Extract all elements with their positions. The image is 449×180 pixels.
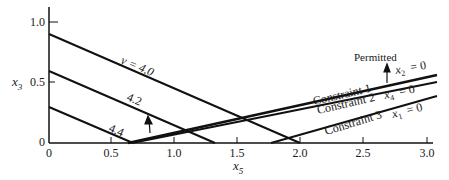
x-tick-label: 3.0 [420, 146, 435, 160]
improve-arrow-icon [145, 116, 152, 124]
x-tick-label: 0.5 [104, 146, 119, 160]
y-axis-title: x3 [11, 74, 23, 92]
permitted-arrow-icon [384, 64, 390, 72]
objective-line-4-0 [49, 34, 300, 143]
tick-labels: 0 0.5 1.0 1.5 2.0 2.5 3.0 0 0.5 1.0 [30, 15, 435, 160]
x-tick-label: 1.0 [167, 146, 182, 160]
chart: 0 0.5 1.0 1.5 2.0 2.5 3.0 0 0.5 1.0 x3 x… [0, 0, 449, 180]
objective-labels: y = 4.0 4.2 4.4 [107, 52, 156, 139]
objective-label-4-4: 4.4 [107, 121, 126, 140]
x-tick-label: 0 [46, 146, 52, 160]
y-tick-label: 0 [39, 135, 45, 149]
objective-lines [49, 34, 300, 143]
constraint-labels: Constraint 1 Constraint 2 Constraint 3 x… [312, 51, 428, 138]
constraint-1-equation: x2= 0 [393, 58, 427, 79]
y-tick-label: 0.5 [30, 75, 45, 89]
x-tick-label: 2.0 [293, 146, 308, 160]
constraint-3-equation: x1= 0 [389, 100, 424, 123]
y-tick-label: 1.0 [30, 15, 45, 29]
x-axis-title: x5 [232, 158, 244, 176]
x-tick-label: 2.5 [356, 146, 371, 160]
permitted-label: Permitted [354, 51, 397, 63]
objective-label-4-0: y = 4.0 [118, 52, 156, 79]
